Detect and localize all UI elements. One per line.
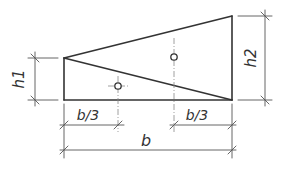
diagonal-split [64, 58, 232, 100]
top-edge [64, 16, 232, 58]
trapezoid-outline [64, 16, 232, 100]
h1-label: h1 [10, 69, 28, 88]
centroid-marker-right [171, 54, 177, 60]
trapezoid-diagram: h1 h2 b/3 b/3 b [0, 0, 289, 169]
centroid-marker-left [115, 83, 121, 89]
b3-left-label: b/3 [77, 107, 100, 123]
b3-right-label: b/3 [186, 107, 209, 123]
diagram-canvas: h1 h2 b/3 b/3 b [0, 0, 289, 169]
b-label: b [141, 131, 151, 150]
h2-label: h2 [242, 48, 260, 67]
